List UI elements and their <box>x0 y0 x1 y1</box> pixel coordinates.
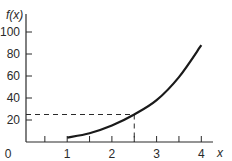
dashed-guides <box>26 115 134 143</box>
function-chart: 2040608010001234 f(x) x <box>0 0 232 161</box>
axes: 2040608010001234 <box>0 14 213 161</box>
x-tick-label: 4 <box>198 147 205 161</box>
y-tick-label: 20 <box>7 113 21 127</box>
y-tick-label: 80 <box>7 47 21 61</box>
x-tick-label: 2 <box>109 147 116 161</box>
y-axis-label: f(x) <box>6 8 23 22</box>
x-tick-label: 3 <box>153 147 160 161</box>
y-tick-label: 60 <box>7 69 21 83</box>
x-axis-label: x <box>216 146 224 160</box>
x-tick-label: 1 <box>64 147 71 161</box>
y-tick-label: 100 <box>0 25 20 39</box>
x-tick-label: 0 <box>5 147 12 161</box>
y-tick-label: 40 <box>7 91 21 105</box>
